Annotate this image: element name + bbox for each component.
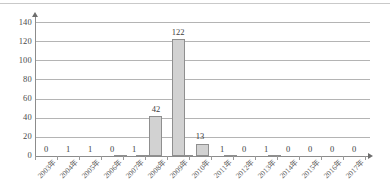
bar-2010: [196, 144, 209, 156]
y-tick-label-140: 140: [6, 18, 32, 27]
data-label-2003: 0: [34, 145, 58, 154]
data-label-2016: 0: [320, 145, 344, 154]
x-tick-10: [255, 156, 256, 160]
gridline-40: [35, 118, 370, 119]
y-tick-label-20: 20: [6, 132, 32, 141]
y-axis-line: [35, 16, 36, 156]
data-label-2005: 1: [78, 145, 102, 154]
y-tick-label-80: 80: [6, 75, 32, 84]
data-label-2012: 0: [232, 145, 256, 154]
y-tick-label-120: 120: [6, 37, 32, 46]
x-tick-3: [101, 156, 102, 160]
x-tick-1: [57, 156, 58, 160]
bar-chart: 140 120 100 80 60 40 20 0 0 1 1 0 1 42 1…: [0, 0, 390, 193]
data-label-2015: 0: [298, 145, 322, 154]
data-label-2007: 1: [122, 145, 146, 154]
top-frame-rule: [0, 3, 390, 4]
bar-2008: [149, 116, 162, 156]
data-label-2013: 1: [254, 145, 278, 154]
y-tick-label-60: 60: [6, 94, 32, 103]
x-tick-14: [343, 156, 344, 160]
x-tick-0: [35, 156, 36, 160]
data-label-2014: 0: [276, 145, 300, 154]
y-tick-label-40: 40: [6, 113, 32, 122]
data-label-2004: 1: [56, 145, 80, 154]
x-tick-9: [233, 156, 234, 160]
gridline-100: [35, 60, 370, 61]
y-axis-arrow-icon: [32, 12, 38, 17]
x-tick-11: [277, 156, 278, 160]
data-label-2017: 0: [342, 145, 366, 154]
gridline-80: [35, 79, 370, 80]
y-tick-label-0: 0: [6, 151, 32, 160]
x-tick-15: [365, 156, 366, 160]
x-tick-7: [189, 156, 190, 160]
data-label-2008: 42: [144, 105, 168, 114]
x-axis-line: [35, 156, 368, 157]
x-tick-6: [167, 156, 168, 160]
data-label-2009: 122: [165, 28, 191, 37]
x-tick-5: [145, 156, 146, 160]
x-axis-arrow-icon: [368, 153, 373, 159]
data-label-2010: 13: [188, 132, 212, 141]
gridline-60: [35, 99, 370, 100]
x-tick-2: [79, 156, 80, 160]
bar-2009: [172, 39, 185, 156]
x-tick-12: [299, 156, 300, 160]
gridline-140: [35, 22, 370, 23]
gridline-120: [35, 41, 370, 42]
x-tick-8: [211, 156, 212, 160]
y-tick-label-100: 100: [6, 56, 32, 65]
x-tick-4: [123, 156, 124, 160]
data-label-2011: 1: [210, 145, 234, 154]
data-label-2006: 0: [100, 145, 124, 154]
x-tick-13: [321, 156, 322, 160]
